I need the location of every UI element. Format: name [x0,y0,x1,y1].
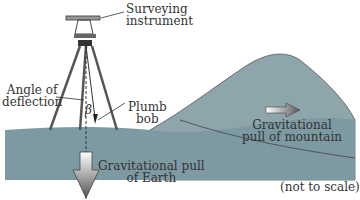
diagram-canvas: Surveying instrument Angle of deflection… [0,0,360,200]
earth-label-line2: of Earth [98,172,205,184]
angle-label-line2: deflection [2,96,62,108]
plumb-bob-label: Plumb bob [128,101,167,125]
plumb-label-line2: bob [128,113,167,125]
earth-pull-label: Gravitational pull of Earth [98,160,205,184]
mountain-label-line2: pull of mountain [242,131,342,143]
mountain-pull-label: Gravitational pull of mountain [242,119,342,143]
angle-label: Angle of deflection [2,84,62,108]
instrument-label-line2: instrument [126,15,193,27]
scale-note: (not to scale) [280,181,360,193]
telescope [66,16,100,20]
instrument-label: Surveying instrument [126,3,193,27]
beta-symbol: β [85,104,92,116]
plumb-bob [93,114,98,124]
